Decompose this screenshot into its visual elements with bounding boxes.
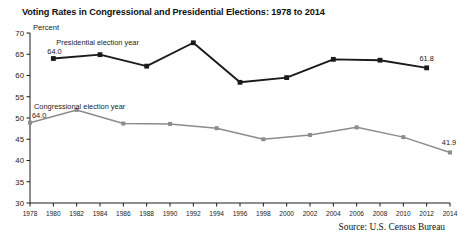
x-tick-label: 1988 (139, 210, 154, 217)
x-axis: 1978198019821984198619881990199219941996… (23, 203, 458, 217)
x-tick-label: 1990 (163, 210, 178, 217)
data-point-marker (401, 135, 405, 139)
presidential-end-value: 61.8 (419, 54, 433, 63)
x-tick-label: 1992 (186, 210, 201, 217)
presidential-start-value: 64.0 (47, 47, 61, 56)
data-point-marker (144, 64, 149, 69)
x-tick-label: 2002 (303, 210, 318, 217)
x-tick-label: 1980 (46, 210, 61, 217)
series-congressional (28, 108, 452, 155)
data-point-marker (284, 75, 289, 80)
x-tick-label: 2014 (443, 210, 458, 217)
x-tick-label: 2008 (373, 210, 388, 217)
x-tick-label: 1986 (116, 210, 131, 217)
x-tick-label: 2000 (279, 210, 294, 217)
series-annotations: Presidential election year64.061.8Congre… (32, 38, 456, 148)
data-point-marker (238, 80, 243, 85)
y-tick-label: 50 (15, 114, 24, 123)
x-tick-label: 1978 (23, 210, 38, 217)
congressional-start-value: 64.0 (32, 111, 46, 120)
series-presidential (51, 40, 429, 84)
data-point-marker (215, 126, 219, 130)
x-tick-label: 2010 (396, 210, 411, 217)
x-tick-label: 1982 (69, 210, 84, 217)
y-tick-label: 70 (15, 29, 24, 38)
y-tick-label: 65 (15, 50, 24, 59)
x-tick-label: 1984 (93, 210, 108, 217)
data-point-marker (308, 133, 312, 137)
y-tick-label: 35 (15, 178, 24, 187)
x-tick-label: 1998 (256, 210, 271, 217)
plot-area: 303540455055606570 197819801982198419861… (0, 0, 459, 240)
congressional-end-value: 41.9 (442, 138, 456, 147)
y-tick-label: 60 (15, 71, 24, 80)
data-point-marker (378, 58, 383, 63)
presidential-series-label: Presidential election year (56, 38, 139, 47)
data-series-group (28, 40, 452, 154)
y-tick-label: 40 (15, 156, 24, 165)
data-point-marker (28, 121, 32, 125)
data-point-marker (51, 56, 56, 61)
x-tick-label: 1996 (233, 210, 248, 217)
data-point-marker (448, 150, 452, 154)
chart-figure: Voting Rates in Congressional and Presid… (0, 0, 459, 240)
data-point-marker (98, 52, 103, 57)
data-point-marker (424, 65, 429, 70)
y-tick-label: 30 (15, 199, 24, 208)
data-point-marker (331, 57, 336, 62)
congressional-series-label: Congressional election year (34, 102, 126, 111)
x-tick-label: 1994 (209, 210, 224, 217)
data-point-marker (191, 40, 196, 45)
x-tick-label: 2006 (349, 210, 364, 217)
x-tick-label: 2004 (326, 210, 341, 217)
y-tick-label: 55 (15, 93, 24, 102)
data-point-marker (168, 122, 172, 126)
source-note: Source: U.S. Census Bureau (339, 222, 446, 232)
data-point-marker (261, 137, 265, 141)
y-axis: 303540455055606570 (15, 29, 30, 208)
y-tick-label: 45 (15, 135, 24, 144)
data-point-marker (121, 122, 125, 126)
x-tick-label: 2012 (419, 210, 434, 217)
data-point-marker (355, 125, 359, 129)
